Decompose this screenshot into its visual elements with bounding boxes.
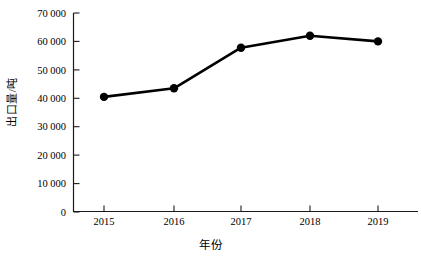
plot-area	[0, 0, 421, 260]
data-point-marker	[237, 44, 245, 52]
y-axis-ticks	[74, 13, 80, 212]
data-point-marker	[170, 84, 178, 92]
data-point-marker	[100, 93, 108, 101]
line-chart-figure: 出口量/吨 70 000 60 000 50 000 40 000 30 000…	[0, 0, 421, 260]
data-point-marker	[306, 32, 314, 40]
data-point-markers	[100, 32, 382, 102]
data-point-marker	[374, 37, 382, 45]
x-axis-ticks	[104, 206, 378, 212]
